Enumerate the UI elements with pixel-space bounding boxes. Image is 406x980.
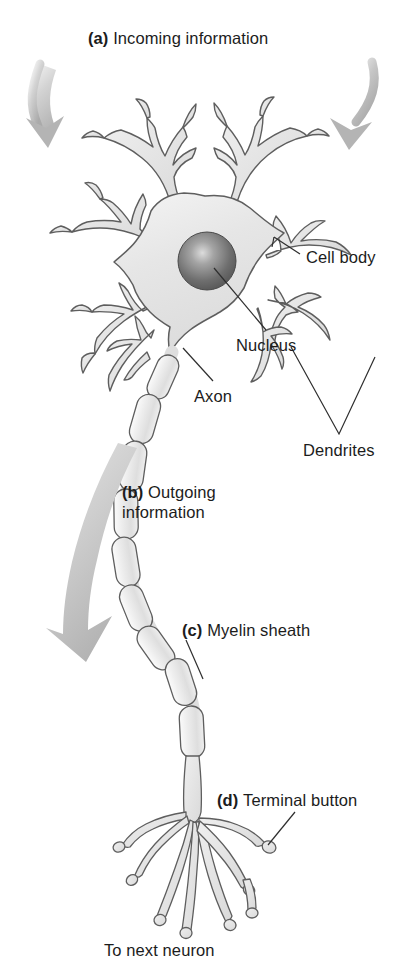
label-incoming-marker: (a) [88, 29, 108, 47]
leader-dendrites [291, 347, 375, 434]
label-terminal-marker: (d) [217, 791, 238, 809]
label-dendrites: Dendrites [303, 440, 375, 460]
incoming-arrow-right [330, 62, 374, 150]
label-axon-text: Axon [194, 387, 232, 405]
nucleus-sphere [178, 232, 236, 290]
label-myelin-marker: (c) [182, 621, 202, 639]
leader-terminal [268, 812, 295, 845]
incoming-arrow-left [26, 64, 64, 148]
label-axon: Axon [194, 386, 232, 406]
label-myelin-sheath: (c) Myelin sheath [182, 620, 310, 640]
label-to-next-neuron-text: To next neuron [104, 941, 215, 959]
label-nucleus-text: Nucleus [236, 336, 296, 354]
label-incoming-text: Incoming information [113, 29, 268, 47]
label-cell-body: Cell body [306, 247, 376, 267]
label-to-next-neuron: To next neuron [104, 940, 215, 960]
neuron-diagram-figure: (a) Incoming information Cell body Nucle… [0, 0, 406, 980]
label-cell-body-text: Cell body [306, 248, 376, 266]
label-outgoing-marker: (b) [122, 483, 143, 501]
label-terminal-text: Terminal button [243, 791, 357, 809]
leader-axon [183, 348, 213, 381]
label-dendrites-text: Dendrites [303, 441, 375, 459]
label-incoming-information: (a) Incoming information [88, 28, 268, 48]
label-myelin-text: Myelin sheath [207, 621, 310, 639]
terminal-button-tree [112, 756, 278, 939]
label-outgoing-information: (b) Outgoing information [122, 482, 242, 522]
label-nucleus: Nucleus [236, 335, 296, 355]
myelin-sheath-segments [110, 352, 205, 759]
label-terminal-button: (d) Terminal button [217, 790, 357, 810]
